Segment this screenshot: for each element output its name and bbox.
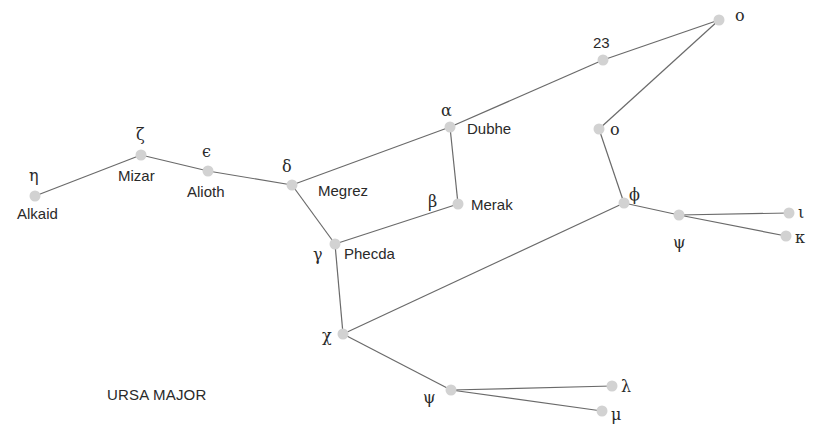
symbol-alioth: ϵ [202, 142, 211, 161]
star-mu [597, 406, 608, 417]
label-alioth: Alioth [187, 183, 225, 200]
symbol-mizar: ζ [136, 125, 145, 144]
symbol-kappa: κ [795, 228, 805, 247]
label-mizar: Mizar [118, 167, 155, 184]
line-dubhe-23 [450, 60, 603, 127]
symbol-lambda: λ [621, 377, 631, 396]
constellation-diagram: η ζ ϵ δ α β γ 23 o o ϕ ψ ι κ χ ψ λ μ Alk… [0, 0, 821, 441]
label-megrez: Megrez [318, 182, 368, 199]
star-23 [598, 55, 609, 66]
line-psi-right-iota [679, 213, 789, 215]
star-alkaid [30, 191, 41, 202]
label-dubhe: Dubhe [467, 120, 511, 137]
symbol-23: 23 [593, 34, 610, 51]
symbol-psi-right: ψ [673, 233, 686, 252]
symbol-alkaid: η [29, 166, 39, 185]
line-phi-psi-right [624, 203, 679, 215]
symbol-megrez: δ [282, 157, 292, 176]
label-alkaid: Alkaid [17, 205, 58, 222]
star-psi-right [674, 210, 685, 221]
line-megrez-dubhe [292, 127, 450, 185]
symbol-merak: β [428, 192, 437, 211]
star-names: Alkaid Mizar Alioth Megrez Dubhe Merak P… [17, 120, 513, 262]
constellation-title: URSA MAJOR [107, 386, 207, 403]
star-mizar [136, 150, 147, 161]
line-phi-chi [343, 203, 624, 334]
line-phecda-chi [335, 244, 343, 334]
symbol-omicron-mid: o [610, 120, 620, 139]
star-megrez [287, 180, 298, 191]
star-phi [619, 198, 630, 209]
label-merak: Merak [471, 196, 513, 213]
label-phecda: Phecda [344, 245, 396, 262]
symbol-chi: χ [322, 326, 332, 345]
line-psi-right-kappa [679, 215, 786, 236]
line-omicron-top-omicron-mid [599, 20, 719, 129]
symbol-phecda: γ [313, 245, 323, 264]
star-dubhe [445, 122, 456, 133]
symbol-psi-bottom: ψ [423, 388, 436, 407]
line-23-omicron-top [603, 20, 719, 60]
symbol-mu: μ [611, 405, 621, 424]
symbol-iota: ι [798, 203, 804, 222]
star-merak [453, 199, 464, 210]
line-psi-bottom-lambda [451, 386, 612, 390]
star-chi [338, 329, 349, 340]
symbol-omicron-top: o [735, 6, 745, 25]
symbol-dubhe: α [441, 101, 452, 120]
line-omicron-mid-phi [599, 129, 624, 203]
star-psi-bottom [446, 385, 457, 396]
symbol-phi: ϕ [629, 185, 640, 204]
star-kappa [781, 231, 792, 242]
star-iota [784, 208, 795, 219]
star-alioth [203, 166, 214, 177]
line-merak-phecda [335, 204, 458, 244]
star-omicron-mid [594, 124, 605, 135]
line-psi-bottom-mu [451, 390, 602, 411]
stars [30, 15, 795, 417]
star-lambda [607, 381, 618, 392]
star-phecda [330, 239, 341, 250]
line-chi-psi-bottom [343, 334, 451, 390]
line-dubhe-merak [450, 127, 458, 204]
star-omicron-top [714, 15, 725, 26]
